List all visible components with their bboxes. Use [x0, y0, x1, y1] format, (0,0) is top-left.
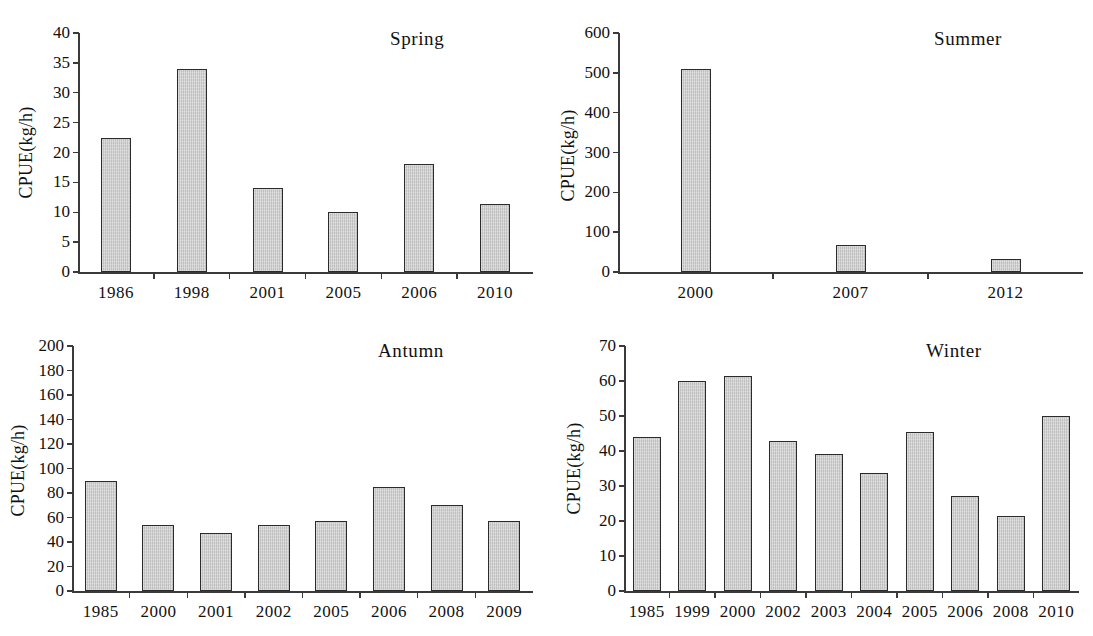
bar-winter-2010: [1042, 416, 1070, 591]
y-tick-winter: [619, 345, 625, 346]
x-axis-line-summer: [618, 272, 1083, 274]
y-tick-label-spring: 25: [0, 114, 70, 131]
y-tick-summer: [613, 152, 619, 153]
y-tick-summer: [613, 112, 619, 113]
y-tick-antumn: [67, 492, 73, 493]
y-tick-label-antumn: 60: [0, 509, 64, 526]
x-tick-spring: [229, 274, 230, 279]
chart-panel-summer: SummerCPUE(kg/h)010020030040050060020002…: [546, 0, 1093, 318]
y-tick-spring: [73, 152, 79, 153]
y-tick-antumn: [67, 590, 73, 591]
x-tick-winter: [714, 593, 715, 598]
y-tick-antumn: [67, 468, 73, 469]
x-tick-label-antumn-2009: 2009: [459, 603, 549, 620]
y-tick-antumn: [67, 419, 73, 420]
y-tick-label-spring: 35: [0, 54, 70, 71]
bar-antumn-2005: [315, 521, 347, 591]
bar-spring-2010: [480, 204, 510, 272]
y-tick-label-summer: 0: [518, 263, 610, 280]
y-tick-label-antumn: 160: [0, 386, 64, 403]
bar-winter-2003: [815, 454, 843, 591]
x-tick-label-summer-2012: 2012: [961, 284, 1051, 301]
chart-panel-spring: SpringCPUE(kg/h)051015202530354019861998…: [0, 0, 546, 318]
x-tick-antumn: [359, 593, 360, 598]
y-tick-summer: [613, 192, 619, 193]
x-tick-antumn: [129, 593, 130, 598]
bar-antumn-2006: [373, 487, 405, 591]
y-tick-label-spring: 0: [0, 263, 70, 280]
y-tick-label-winter: 10: [524, 547, 616, 564]
plot-area-antumn: 0204060801001201401601802001985200020012…: [72, 346, 533, 591]
bar-antumn-1985: [85, 481, 117, 591]
y-tick-winter: [619, 415, 625, 416]
x-tick-winter: [1033, 593, 1034, 598]
y-tick-winter: [619, 450, 625, 451]
y-tick-summer: [613, 271, 619, 272]
x-tick-spring: [456, 274, 457, 279]
y-tick-antumn: [67, 394, 73, 395]
y-tick-label-summer: 200: [518, 183, 610, 200]
y-axis-label-winter: CPUE(kg/h): [564, 422, 585, 514]
x-tick-antumn: [244, 593, 245, 598]
plot-area-winter: 0102030405060701985199920002002200320042…: [624, 346, 1079, 591]
y-tick-spring: [73, 62, 79, 63]
y-tick-label-winter: 0: [524, 582, 616, 599]
y-tick-label-spring: 40: [0, 24, 70, 41]
y-tick-label-antumn: 80: [0, 484, 64, 501]
bar-winter-2004: [860, 473, 888, 591]
y-tick-antumn: [67, 345, 73, 346]
y-tick-label-summer: 100: [518, 223, 610, 240]
bar-summer-2007: [836, 245, 866, 272]
bar-antumn-2008: [431, 505, 463, 591]
y-tick-label-antumn: 0: [0, 582, 64, 599]
plot-area-summer: 0100200300400500600200020072012: [618, 33, 1083, 272]
y-axis-line-winter: [624, 346, 626, 591]
y-tick-spring: [73, 182, 79, 183]
x-tick-antumn: [475, 593, 476, 598]
bar-winter-2008: [997, 516, 1025, 591]
x-tick-winter: [896, 593, 897, 598]
x-tick-summer: [927, 274, 928, 279]
plot-area-spring: 0510152025303540198619982001200520062010: [78, 33, 533, 272]
y-tick-spring: [73, 122, 79, 123]
x-tick-winter: [987, 593, 988, 598]
bar-summer-2012: [991, 259, 1021, 272]
x-tick-spring: [153, 274, 154, 279]
y-tick-label-winter: 60: [524, 372, 616, 389]
bar-spring-1998: [177, 69, 207, 272]
y-tick-winter: [619, 520, 625, 521]
chart-panel-antumn: AntumnCPUE(kg/h)020406080100120140160180…: [0, 318, 546, 636]
x-tick-spring: [381, 274, 382, 279]
y-tick-label-summer: 600: [518, 24, 610, 41]
y-tick-summer: [613, 32, 619, 33]
y-tick-label-winter: 70: [524, 337, 616, 354]
bar-winter-2002: [769, 441, 797, 592]
x-tick-winter: [760, 593, 761, 598]
x-tick-winter: [851, 593, 852, 598]
y-tick-antumn: [67, 541, 73, 542]
x-tick-label-summer-2000: 2000: [651, 284, 741, 301]
y-tick-label-antumn: 200: [0, 337, 64, 354]
bar-winter-2005: [906, 432, 934, 591]
bar-spring-2005: [328, 212, 358, 272]
y-tick-label-winter: 50: [524, 407, 616, 424]
y-tick-label-spring: 20: [0, 144, 70, 161]
bar-antumn-2001: [200, 533, 232, 591]
y-tick-label-spring: 10: [0, 203, 70, 220]
y-tick-label-spring: 15: [0, 173, 70, 190]
x-tick-label-summer-2007: 2007: [806, 284, 896, 301]
y-tick-label-antumn: 180: [0, 362, 64, 379]
y-tick-antumn: [67, 566, 73, 567]
y-tick-spring: [73, 271, 79, 272]
chart-grid: SpringCPUE(kg/h)051015202530354019861998…: [0, 0, 1093, 636]
y-tick-label-spring: 5: [0, 233, 70, 250]
x-tick-spring: [305, 274, 306, 279]
y-tick-label-winter: 40: [524, 442, 616, 459]
y-tick-summer: [613, 72, 619, 73]
y-tick-winter: [619, 485, 625, 486]
x-tick-antumn: [417, 593, 418, 598]
y-tick-winter: [619, 590, 625, 591]
bar-spring-2006: [404, 164, 434, 272]
x-tick-antumn: [187, 593, 188, 598]
y-tick-summer: [613, 231, 619, 232]
